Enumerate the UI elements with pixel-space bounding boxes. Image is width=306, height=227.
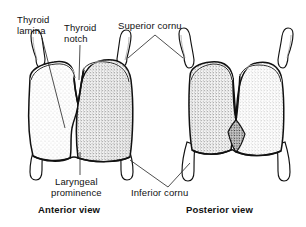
label-superior-cornu: Superior cornu xyxy=(118,21,182,32)
label-laryngeal-prominence: Laryngeal prominence xyxy=(51,177,102,198)
posterior-right-superior-cornu xyxy=(278,28,293,68)
thyroid-cartilage-figure: Thyroid lamina Thyroid notch Superior co… xyxy=(0,0,306,227)
leader-inferior-cornu xyxy=(130,160,190,187)
leader-superior-cornu xyxy=(128,35,183,58)
label-thyroid-notch: Thyroid notch xyxy=(64,23,96,44)
posterior-view-drawing xyxy=(179,28,294,181)
posterior-left-superior-cornu xyxy=(179,28,194,68)
caption-posterior-view: Posterior view xyxy=(186,205,253,216)
caption-anterior-view: Anterior view xyxy=(38,205,100,216)
label-thyroid-lamina: Thyroid lamina xyxy=(17,15,49,36)
label-inferior-cornu: Inferior cornu xyxy=(131,188,188,199)
anterior-view-drawing xyxy=(20,30,142,180)
